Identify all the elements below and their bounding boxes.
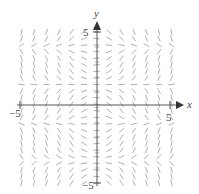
x-tick-label-5: 5 <box>166 112 172 123</box>
y-axis-label: y <box>94 8 99 19</box>
x-axis-label: x <box>187 99 192 110</box>
y-tick-label-neg5: −5 <box>82 180 94 191</box>
y-axis-arrow-icon <box>93 21 101 30</box>
y-tick-label-5: 5 <box>83 27 89 38</box>
direction-field-plot <box>0 0 199 194</box>
x-axis-arrow-icon <box>176 101 184 109</box>
x-tick-label-neg5: −5 <box>9 108 21 119</box>
